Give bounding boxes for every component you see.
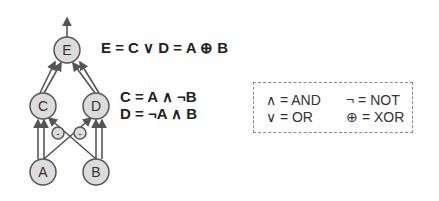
legend-and: ∧ = AND — [266, 92, 321, 108]
node-a-label: A — [38, 164, 48, 180]
equation-c: C = A ∧ ¬B — [120, 88, 197, 106]
node-b-label: B — [91, 164, 100, 180]
legend-or: ∨ = OR — [266, 109, 313, 125]
equation-e: E = C ∨ D = A ⊕ B — [101, 39, 228, 57]
legend-not: ¬ = NOT — [346, 92, 400, 108]
equation-d: D = ¬A ∧ B — [120, 105, 197, 123]
legend-xor: ⊕ = XOR — [346, 109, 404, 125]
node-d-label: D — [91, 98, 101, 114]
node-c-label: C — [38, 98, 48, 114]
negation-label-left: - — [56, 128, 59, 139]
negation-label-right: - — [78, 128, 81, 139]
operator-legend: ∧ = AND ∨ = OR ¬ = NOT ⊕ = XOR — [253, 82, 413, 133]
node-e-label: E — [62, 42, 71, 58]
